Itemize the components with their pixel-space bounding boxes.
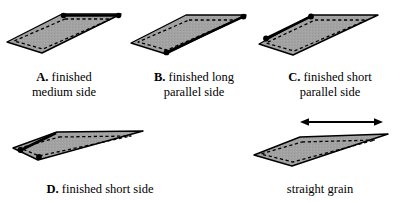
caption-piece-a-line1: finished: [52, 70, 92, 84]
caption-piece-c-line2: parallel side: [300, 85, 361, 99]
caption-piece-grain-line1: straight grain: [287, 182, 353, 196]
piece-b-endpoint-dot-lower: [164, 50, 170, 56]
caption-piece-grain: straight grain: [240, 182, 400, 197]
piece-c-endpoint-dot-upper: [308, 14, 314, 20]
caption-piece-b-line1: finished long: [168, 70, 234, 84]
caption-piece-c-key: C.: [288, 70, 300, 84]
pattern-pieces-illustration: [0, 0, 400, 203]
piece-d-endpoint-dot-upper: [18, 147, 24, 153]
caption-piece-b-key: B.: [154, 70, 165, 84]
caption-piece-d-key: D.: [47, 182, 59, 196]
caption-piece-d-line1: finished short side: [62, 182, 154, 196]
figure-sewing-pattern-pieces: MAKE UP: [0, 0, 400, 203]
caption-piece-c: C. finished short parallel side: [260, 70, 400, 100]
piece-d-endpoint-dot-lower: [36, 154, 42, 160]
caption-piece-c-line1: finished short: [303, 70, 371, 84]
caption-piece-a-key: A.: [36, 70, 48, 84]
caption-piece-b-line2: parallel side: [164, 85, 225, 99]
piece-a-endpoint-dot-right: [116, 13, 122, 19]
piece-c-endpoint-dot-lower: [263, 36, 269, 42]
piece-a-endpoint-dot-left: [61, 13, 67, 19]
caption-piece-d: D. finished short side: [0, 182, 200, 197]
caption-piece-a: A. finished medium side: [0, 70, 128, 100]
caption-piece-b: B. finished long parallel side: [128, 70, 260, 100]
caption-piece-a-line2: medium side: [32, 85, 96, 99]
piece-b-endpoint-dot-upper: [241, 14, 247, 20]
